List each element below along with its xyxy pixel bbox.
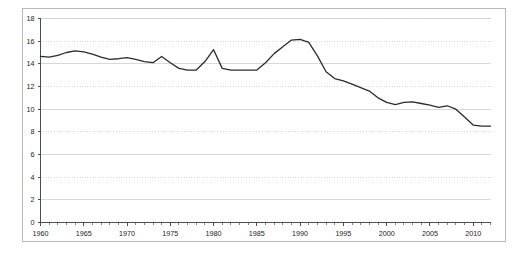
x-tick-label-1980: 1980 — [206, 229, 222, 238]
y-tick-label-12: 12 — [27, 82, 35, 91]
y-tick-label-16: 16 — [27, 37, 35, 46]
chart-container: 024681012141618 196019651970197519801985… — [0, 0, 529, 254]
y-tick-label-18: 18 — [27, 14, 35, 23]
y-tick-label-8: 8 — [31, 127, 35, 136]
x-tick-label-1960: 1960 — [33, 229, 49, 238]
x-tick-label-1985: 1985 — [249, 229, 265, 238]
y-tick-label-14: 14 — [27, 59, 35, 68]
x-tick-label-1995: 1995 — [335, 229, 351, 238]
x-tick-label-1970: 1970 — [119, 229, 135, 238]
y-tick-label-0: 0 — [31, 218, 35, 227]
y-tick-label-6: 6 — [31, 150, 35, 159]
y-tick-label-10: 10 — [27, 105, 35, 114]
data-series-line — [41, 39, 491, 126]
x-tick-label-2010: 2010 — [465, 229, 481, 238]
y-tick-labels: 024681012141618 — [27, 14, 35, 227]
x-tick-label-1990: 1990 — [292, 229, 308, 238]
y-tick-label-4: 4 — [31, 173, 35, 182]
y-tick-label-2: 2 — [31, 195, 35, 204]
y-axis — [38, 18, 41, 223]
x-tick-label-1965: 1965 — [76, 229, 92, 238]
grid-lines — [41, 19, 491, 200]
x-tick-label-2005: 2005 — [422, 229, 438, 238]
x-tick-label-2000: 2000 — [379, 229, 395, 238]
line-chart: 024681012141618 196019651970197519801985… — [0, 0, 529, 254]
x-tick-labels: 1960196519701975198019851990199520002005… — [33, 229, 482, 238]
x-axis — [41, 223, 491, 227]
x-tick-label-1975: 1975 — [162, 229, 178, 238]
series-line-path — [41, 39, 491, 126]
